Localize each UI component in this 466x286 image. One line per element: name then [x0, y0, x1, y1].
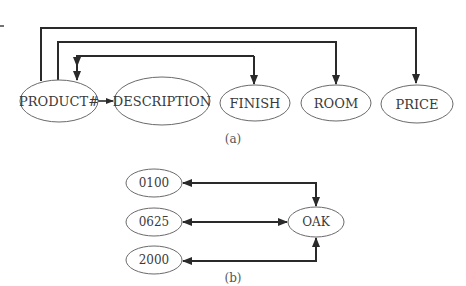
node-description: DESCRIPTION [113, 77, 211, 125]
node-label: 0100 [139, 176, 170, 190]
node-price: PRICE [381, 85, 453, 123]
edge-0100-oak [183, 183, 316, 206]
edge-2000-oak [183, 238, 316, 261]
edge-product-room [58, 42, 336, 84]
caption-a: (a) [225, 132, 242, 146]
node-0100: 0100 [126, 169, 182, 197]
node-label: 0625 [139, 215, 170, 229]
node-finish: FINISH [220, 85, 290, 121]
node-label: PRODUCT# [19, 94, 99, 109]
node-2000: 2000 [126, 246, 182, 274]
node-label: DESCRIPTION [113, 94, 211, 109]
edge-product-finish-back [77, 56, 254, 80]
node-label: OAK [302, 215, 331, 229]
node-label: 2000 [139, 253, 170, 267]
diagram-canvas: PRODUCT# DESCRIPTION FINISH ROOM PRICE (… [0, 0, 466, 286]
node-label: ROOM [314, 96, 358, 111]
node-oak: OAK [288, 207, 344, 237]
caption-b: (b) [224, 271, 241, 285]
node-room: ROOM [301, 85, 371, 121]
node-product: PRODUCT# [19, 80, 99, 122]
node-label: FINISH [230, 96, 281, 111]
node-label: PRICE [395, 97, 438, 112]
node-0625: 0625 [126, 208, 182, 236]
